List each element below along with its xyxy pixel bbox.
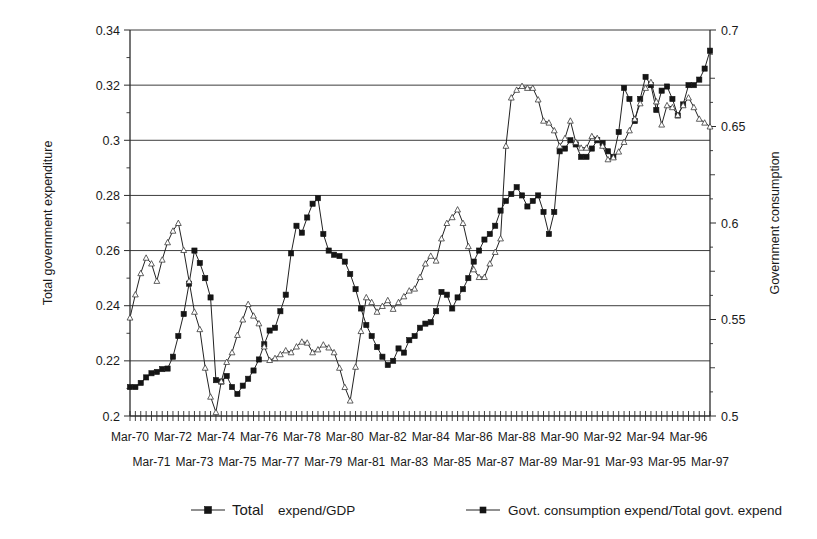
data-point [509,191,514,196]
data-point [224,373,229,378]
data-point [133,384,138,389]
x-tick-label: Mar-80 [326,430,364,444]
left-tick-label: 0.26 [96,244,120,258]
x-tick-label: Mar-82 [369,430,407,444]
y-axis-title: Total government expenditure [41,141,55,306]
x-tick-label: Mar-95 [648,455,686,469]
data-point [589,146,594,151]
right-tick-label: 0.55 [721,313,745,327]
data-point [197,260,202,265]
x-tick-label: Mar-73 [175,455,213,469]
legend-item-govt-consumption[interactable]: Govt. consumption expend/Total govt. exp… [466,503,782,518]
data-point [476,248,481,253]
right-tick-label: 0.65 [721,120,745,134]
data-point [192,248,197,253]
data-point [235,391,240,396]
data-point [584,154,589,159]
x-tick-label: Mar-78 [283,430,321,444]
data-point [396,346,401,351]
data-point [552,209,557,214]
data-point [289,251,294,256]
data-point [160,367,165,372]
data-point [557,149,562,154]
data-point [310,201,315,206]
data-point [536,193,541,198]
x-tick-label: Mar-90 [541,430,579,444]
left-tick-label: 0.24 [96,299,120,313]
legend-label-1: expend/GDP [278,503,355,518]
right-tick-label: 0.7 [721,24,738,38]
data-point [342,259,347,264]
data-point [401,350,406,355]
data-point [213,378,218,383]
x-tick-label: Mar-79 [304,455,342,469]
data-point [358,306,363,311]
data-point [299,230,304,235]
data-point [525,204,530,209]
data-point [374,344,379,349]
data-point [208,295,213,300]
data-point [493,223,498,228]
data-point [240,383,245,388]
x-tick-label: Mar-85 [433,455,471,469]
x-tick-label: Mar-74 [197,430,235,444]
data-point [170,354,175,359]
data-point [691,83,696,88]
data-point [267,328,272,333]
x-tick-label: Mar-83 [390,455,428,469]
x-tick-label: Mar-72 [154,430,192,444]
data-point [337,253,342,258]
data-point [643,74,648,79]
left-tick-label: 0.2 [103,410,120,424]
x-tick-label: Mar-77 [261,455,299,469]
data-point [621,85,626,90]
data-point [460,287,465,292]
data-point [278,309,283,314]
y2-axis-title: Government consumption [768,151,782,294]
data-point [444,292,449,297]
data-point [439,289,444,294]
data-point [165,366,170,371]
x-tick-label: Mar-96 [669,430,707,444]
data-point [686,83,691,88]
left-tick-label: 0.34 [96,24,120,38]
data-point [203,276,208,281]
data-point [450,306,455,311]
data-point [702,66,707,71]
data-point [670,96,675,101]
data-point [391,358,396,363]
data-point [562,146,567,151]
legend-label-2: Govt. consumption expend/Total govt. exp… [508,503,782,518]
legend-marker-2 [480,507,486,513]
left-tick-label: 0.22 [96,354,120,368]
data-point [659,88,664,93]
data-point [246,376,251,381]
data-point [579,154,584,159]
data-point [256,357,261,362]
x-tick-label: Mar-70 [111,430,149,444]
x-tick-label: Mar-92 [584,430,622,444]
data-point [423,321,428,326]
data-point [272,325,277,330]
data-point [181,311,186,316]
x-tick-label: Mar-91 [562,455,600,469]
legend-label-1-strong: Total [232,501,264,518]
right-tick-label: 0.6 [721,217,738,231]
data-point [605,149,610,154]
data-point [466,276,471,281]
data-point [385,362,390,367]
data-point [369,333,374,338]
x-tick-label: Mar-93 [605,455,643,469]
x-tick-label: Mar-94 [627,430,665,444]
data-point [364,322,369,327]
data-point [664,84,669,89]
data-point [530,198,535,203]
data-point [568,138,573,143]
data-point [546,231,551,236]
data-point [294,223,299,228]
right-tick-label: 0.5 [721,410,738,424]
data-point [412,333,417,338]
data-point [348,271,353,276]
data-point [616,129,621,134]
x-tick-label: Mar-84 [412,430,450,444]
